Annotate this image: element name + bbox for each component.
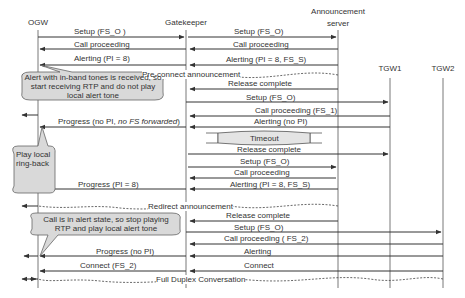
- callout-alert-inband: Alert with in-band tones is received, so…: [24, 73, 162, 100]
- msg-callproc-as-gk: Call proceeding: [233, 40, 289, 49]
- msg-relcomp-as-gk: Release complete: [228, 79, 292, 88]
- media-label-full-duplex: Full Duplex Conversation: [156, 275, 245, 284]
- msg-connect-gk-ogw: Connect (FS_2): [80, 261, 136, 270]
- msg-progress-gk-ogw: Progress (no PI, no FS forwarded): [58, 117, 180, 126]
- msg-alerting-tgw2-gk: Alerting: [244, 247, 271, 256]
- msg-alerting-as-gk-2: Alerting (PI = 8, FS_S): [230, 180, 310, 189]
- msg-setup-gk-as-2: Setup (FS_O): [240, 157, 289, 166]
- msg-setup-gk-tgw1: Setup (FS_O): [246, 93, 295, 102]
- msg-setup-gk-tgw2: Setup (FS_O): [234, 223, 283, 232]
- callout-play-ringback: Play local ring-back: [16, 150, 52, 168]
- media-label-redirect: Redirect announcement: [148, 202, 233, 211]
- msg-relcomp-as-gk-2: Release complete: [226, 211, 290, 220]
- msg-progress-nopi-gk-ogw: Progress (no PI): [96, 247, 154, 256]
- msg-alerting-as-gk: Alerting (PI = 8, FS_S): [226, 55, 306, 64]
- timer-label-timeout: Timeout: [250, 134, 279, 143]
- msg-relcomp-gk-tgw1: Release complete: [237, 145, 301, 154]
- msg-callproc-as-gk-2: Call proceeding: [234, 168, 290, 177]
- msg-callproc-tgw2-gk: Call proceeding ( FS_2): [224, 234, 308, 243]
- callout-alert-state: Call is in alert state, so stop playing …: [40, 215, 172, 233]
- participant-announcement-server-line1: Announcement: [306, 7, 370, 17]
- msg-setup-ogw-gk: Setup (FS_O ): [74, 27, 126, 36]
- participant-ogw: OGW: [22, 18, 54, 28]
- msg-callproc-gk-ogw: Call proceeding: [74, 40, 130, 49]
- participant-announcement-server-line2: server: [306, 19, 370, 29]
- msg-connect-tgw2-gk: Connect: [244, 261, 274, 270]
- participant-gatekeeper: Gatekeeper: [160, 18, 212, 28]
- msg-alerting-gk-ogw: Alerting (PI = 8): [74, 54, 130, 63]
- msg-progress-pi8-gk-ogw: Progress (PI = 8): [78, 180, 139, 189]
- participant-tgw2: TGW2: [427, 64, 459, 74]
- sequence-diagram: OGW Gatekeeper Announcement server TGW1 …: [0, 0, 465, 298]
- participant-tgw1: TGW1: [374, 64, 406, 74]
- msg-setup-gk-as: Setup (FS_O): [234, 27, 283, 36]
- msg-callproc-tgw1-gk: Call proceeding (FS_1): [255, 106, 337, 115]
- msg-alerting-tgw1-gk: Alerting (no PI): [254, 117, 307, 126]
